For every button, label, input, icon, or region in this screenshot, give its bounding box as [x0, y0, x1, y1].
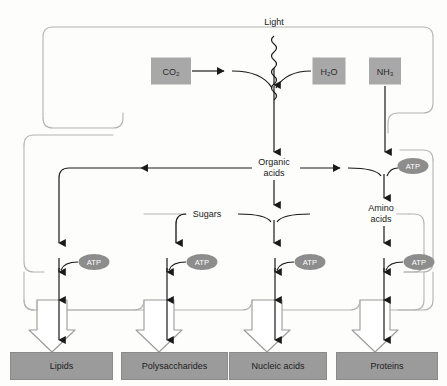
hollow-arrow-lipids	[136, 300, 182, 352]
product-box-nucleic-acids: Nucleic acids	[229, 352, 327, 380]
intermediate-amino-acids: Amino acids	[366, 203, 396, 224]
organic-acids-arrows	[59, 168, 398, 243]
reactant-box-nh3: NH₃	[369, 58, 401, 85]
product-box-proteins: Proteins	[336, 352, 438, 380]
hollow-product-arrows	[29, 300, 398, 352]
top-reaction-arrows	[192, 71, 385, 152]
hollow-arrow-nucleic-acids	[352, 300, 398, 352]
intermediate-organic-acids: Organic acids	[256, 157, 292, 178]
product-box-polysaccharides: Polysaccharides	[121, 352, 228, 380]
atp-chip-polysaccharides: ATP	[187, 254, 218, 270]
atp-chip-proteins: ATP	[404, 254, 435, 270]
light-label: Light	[264, 17, 284, 27]
atp-coupling-arrows	[59, 258, 403, 300]
atp-chip-nucleic-acids: ATP	[295, 254, 326, 270]
product-entry-arrows	[59, 300, 384, 340]
hollow-arrow-polysaccharides	[244, 300, 290, 352]
atp-chip-amino-acids: ATP	[398, 158, 429, 174]
biosynthesis-diagram: Light CO₂ H₂O NH₃ Organic acids Sugars A…	[0, 0, 447, 386]
product-box-lipids: Lipids	[10, 352, 113, 380]
hollow-arrow-proteins	[29, 300, 75, 352]
reactant-box-co2: CO₂	[151, 58, 191, 85]
atp-chip-lipids: ATP	[79, 254, 110, 270]
reactant-box-h2o: H₂O	[313, 58, 346, 85]
intermediate-sugars: Sugars	[191, 209, 224, 220]
